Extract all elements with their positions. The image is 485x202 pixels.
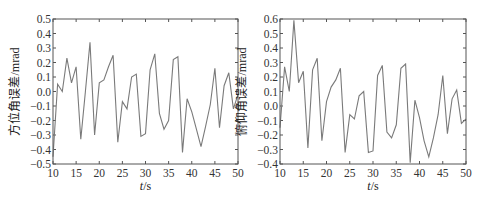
figure: 101520253035404550−0.5−0.4−0.3−0.2−0.10.… [0,0,485,202]
y-tick-label: 0.4 [264,42,279,54]
y-tick-label: −0.2 [30,115,51,127]
x-tick-label: 40 [414,167,426,179]
elevation-error-line [280,20,466,162]
y-tick-label: −0.2 [257,129,278,141]
x-tick-label: 45 [437,167,449,179]
azimuth-y-axis-label: 方位角误差/mrad [7,48,22,136]
y-tick-label: −0.3 [30,129,51,141]
x-tick-label: 30 [367,167,379,179]
y-tick-label: −0.5 [30,158,51,170]
y-tick-label: −0.4 [30,144,51,156]
y-tick-label: 0.6 [264,13,279,25]
x-tick-label: 25 [344,167,356,179]
x-tick-label: 30 [140,167,152,179]
x-tick-label: 20 [94,167,106,179]
y-tick-label: −0.1 [257,115,278,127]
y-tick-label: 0.0 [264,100,279,112]
x-tick-label: 35 [163,167,175,179]
elevation-x-axis-label: t/s [367,179,379,193]
x-tick-label: 45 [209,167,221,179]
y-tick-label: 0.1 [37,71,52,83]
y-tick-label: 0.1 [264,86,279,98]
x-tick-label: 25 [117,167,129,179]
y-tick-label: −0.4 [257,158,278,170]
y-tick-label: 0.2 [264,71,279,83]
x-axis-unit: /s [143,179,151,193]
y-tick-label: −0.3 [257,144,278,156]
y-tick-label: 0.2 [37,57,52,69]
y-tick-label: −0.1 [30,100,51,112]
x-tick-label: 50 [232,167,244,179]
azimuth-error-line [53,42,238,157]
x-tick-label: 40 [186,167,198,179]
elevation-y-axis-label: 俯仰角误差/mrad [234,48,249,136]
y-tick-label: 0.3 [264,57,279,69]
x-tick-label: 15 [70,167,82,179]
x-tick-label: 50 [460,167,472,179]
y-tick-label: 0.3 [37,42,52,54]
y-tick-label: 0.4 [37,28,52,40]
azimuth-plot-frame [53,19,238,164]
x-tick-label: 15 [298,167,310,179]
x-axis-unit: /s [371,179,379,193]
x-tick-label: 35 [391,167,403,179]
y-tick-label: 0.5 [264,28,279,40]
y-tick-label: 0.0 [37,86,52,98]
elevation-error-chart: 101520253035404550−0.4−0.3−0.2−0.10.00.1… [234,13,472,193]
azimuth-error-chart: 101520253035404550−0.5−0.4−0.3−0.2−0.10.… [7,13,244,193]
x-tick-label: 20 [321,167,333,179]
azimuth-x-axis-label: t/s [140,179,152,193]
y-tick-label: 0.5 [37,13,52,25]
